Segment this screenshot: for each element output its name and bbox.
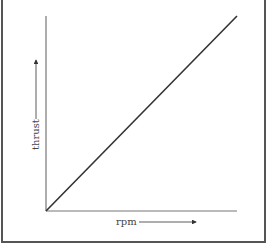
line-chart: rpm thrust [0, 0, 271, 250]
y-axis-label: thrust [30, 119, 41, 150]
data-line [46, 16, 237, 211]
x-axis-label: rpm [116, 216, 137, 227]
